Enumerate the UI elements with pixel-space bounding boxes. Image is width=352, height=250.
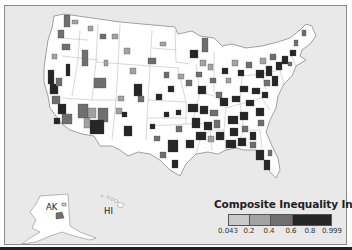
hawaii-label: HI	[104, 206, 113, 216]
legend-ticks: 0.043 0.2 0.4 0.6 0.8 0.999	[214, 227, 344, 237]
legend-swatch-3	[271, 215, 294, 225]
legend-swatch-2	[250, 215, 271, 225]
legend-tick: 0.6	[285, 227, 296, 235]
legend-tick: 0.2	[243, 227, 254, 235]
legend-swatch-1	[229, 215, 250, 225]
legend-tick: 0.4	[263, 227, 274, 235]
legend-swatches	[228, 214, 332, 226]
legend-tick: 0.8	[304, 227, 315, 235]
legend-tick: 0.043	[218, 227, 238, 235]
legend-title: Composite Inequality Index	[214, 198, 344, 210]
legend: Composite Inequality Index 0.043 0.2 0.4…	[214, 198, 344, 237]
legend-swatch-4	[293, 215, 331, 225]
alaska-label: AK	[46, 202, 57, 212]
alaska-shape	[22, 194, 96, 244]
legend-tick: 0.999	[322, 227, 342, 235]
contiguous-us-shape	[44, 14, 316, 178]
